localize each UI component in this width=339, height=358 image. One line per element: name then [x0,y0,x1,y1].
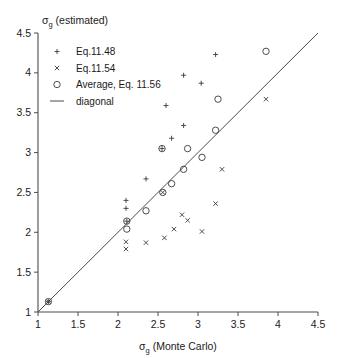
x-axis-title: σg (Monte Carlo) [139,340,217,355]
x-tick-label: 1.5 [71,318,86,330]
x-tick-label: 3.5 [231,318,246,330]
series-cross [46,97,268,304]
x-tick-label: 4.5 [311,318,326,330]
legend-label: Eq.11.54 [76,63,116,74]
legend-item: Average, Eq. 11.56 [54,79,161,90]
legend-label: diagonal [76,96,114,107]
circle-marker [212,127,218,133]
y-tick-label: 2.5 [16,186,31,198]
x-tick-label: 2 [115,318,121,330]
diagonal-line [38,33,318,312]
plot-canvas: 11.522.533.544.511.522.533.544.5 Eq.11.4… [0,0,339,358]
circle-marker [215,96,221,102]
x-tick-label: 4 [275,318,281,330]
y-tick-label: 3.5 [16,106,31,118]
x-tick-label: 3 [195,318,201,330]
legend-label: Average, Eq. 11.56 [76,79,161,90]
legend-item: Eq.11.54 [55,63,116,74]
x-tick-label: 1 [35,318,41,330]
x-tick-label: 2.5 [151,318,166,330]
scatter-plot-figure: 11.522.533.544.511.522.533.544.5 Eq.11.4… [0,0,339,358]
legend-item: diagonal [50,96,114,107]
y-tick-label: 1.5 [16,266,31,278]
circle-marker [184,145,190,151]
circle-marker [168,180,174,186]
y-tick-label: 1 [25,306,31,318]
circle-marker [263,48,269,54]
y-tick-label: 3 [25,146,31,158]
circle-marker [143,208,149,214]
diagonal-reference-line [38,33,318,312]
legend-label: Eq.11.48 [76,46,116,57]
y-tick-label: 4.5 [16,27,31,39]
y-tick-label: 4 [25,66,31,78]
circle-marker [199,154,205,160]
y-axis-title: σg (estimated) [42,14,108,29]
axis-titles-group: σg (estimated)σg (Monte Carlo) [42,14,217,355]
chart-legend: Eq.11.48Eq.11.54Average, Eq. 11.56diagon… [50,46,161,107]
legend-item: Eq.11.48 [55,46,116,57]
y-tick-label: 2 [25,226,31,238]
circle-marker [54,81,60,87]
circle-marker [124,226,130,232]
